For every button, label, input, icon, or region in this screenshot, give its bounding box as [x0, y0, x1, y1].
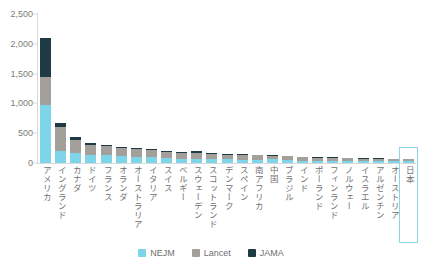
legend-label: JAMA	[260, 248, 284, 258]
legend-swatch-icon	[248, 249, 256, 257]
y-axis-tick-label: 2,000	[0, 39, 33, 49]
x-axis-line	[37, 163, 416, 164]
bar-segment-lancet	[116, 148, 127, 156]
y-axis-tick-mark	[33, 103, 37, 104]
legend-swatch-icon	[138, 249, 146, 257]
x-axis-tick-label: ドイツ	[85, 166, 96, 193]
x-axis-tick-label: カナダ	[70, 166, 81, 193]
x-axis-tick-label: アメリカ	[40, 166, 51, 202]
x-axis-tick-label: イスラエル	[358, 166, 369, 211]
x-axis-tick-label: フランス	[101, 166, 112, 202]
bar-segment-nejm	[146, 157, 157, 163]
bar-segment-nejm	[358, 161, 369, 163]
bar-column[interactable]	[403, 159, 414, 163]
y-axis-tick-mark	[33, 133, 37, 134]
bar-segment-nejm	[373, 161, 384, 163]
bar-segment-nejm	[191, 159, 202, 163]
bar-segment-nejm	[388, 161, 399, 163]
x-axis-tick-label: オーストリア	[388, 166, 399, 220]
bar-segment-nejm	[327, 161, 338, 163]
bar-column[interactable]	[116, 147, 127, 163]
bar-column[interactable]	[191, 151, 202, 163]
bar-column[interactable]	[85, 143, 96, 163]
x-axis-tick-label: オーストラリア	[131, 166, 142, 229]
bar-column[interactable]	[388, 159, 399, 163]
x-axis-tick-label: フィンランド	[327, 166, 338, 220]
bar-column[interactable]	[327, 157, 338, 163]
bar-column[interactable]	[267, 155, 278, 163]
x-axis-tick-label: スウェーデン	[191, 166, 202, 220]
bar-segment-lancet	[131, 149, 142, 157]
bar-column[interactable]	[55, 123, 66, 163]
bar-column[interactable]	[312, 157, 323, 163]
y-axis-tick-mark	[33, 73, 37, 74]
x-axis-tick-label: スペイン	[237, 166, 248, 202]
bar-column[interactable]	[342, 158, 353, 163]
bar-column[interactable]	[101, 145, 112, 163]
x-axis-tick-label: オランダ	[116, 166, 127, 202]
bar-column[interactable]	[297, 157, 308, 163]
bar-segment-nejm	[403, 161, 414, 163]
legend-item[interactable]: JAMA	[248, 248, 284, 258]
y-axis-tick-label: 500	[0, 128, 33, 138]
stacked-bar-chart: 05001,0001,5002,0002,500 アメリカイングランドカナダドイ…	[0, 0, 422, 270]
x-axis-tick-label: 南アフリカ	[252, 166, 263, 211]
x-axis-tick-label: ノルウェー	[342, 166, 353, 211]
y-axis-tick-mark	[33, 43, 37, 44]
bar-column[interactable]	[252, 155, 263, 163]
bar-segment-lancet	[70, 140, 81, 152]
plot-area	[38, 14, 416, 163]
bar-segment-lancet	[55, 127, 66, 151]
bar-segment-jama	[40, 38, 51, 77]
x-axis-tick-label: アルゼンチン	[373, 166, 384, 220]
bar-column[interactable]	[373, 158, 384, 163]
x-axis-labels: アメリカイングランドカナダドイツフランスオランダオーストラリアイタリアスイスベル…	[38, 166, 416, 244]
x-axis-tick-label: イタリア	[146, 166, 157, 202]
bar-segment-nejm	[222, 159, 233, 163]
bar-segment-nejm	[252, 160, 263, 163]
y-axis-tick-mark	[33, 163, 37, 164]
bar-column[interactable]	[176, 152, 187, 163]
bar-column[interactable]	[131, 148, 142, 163]
x-axis-tick-label: 中国	[267, 166, 278, 184]
bar-segment-nejm	[176, 159, 187, 163]
bar-segment-nejm	[267, 159, 278, 163]
bar-segment-lancet	[101, 146, 112, 155]
legend-item[interactable]: Lancet	[192, 248, 231, 258]
bar-segment-nejm	[342, 161, 353, 163]
bar-segment-nejm	[297, 161, 308, 164]
bar-column[interactable]	[358, 158, 369, 163]
legend-label: NEJM	[150, 248, 175, 258]
bar-segment-nejm	[116, 156, 127, 163]
bar-segment-nejm	[312, 161, 323, 163]
bar-column[interactable]	[146, 149, 157, 163]
bar-segment-nejm	[101, 155, 112, 163]
y-axis-tick-label: 2,500	[0, 9, 33, 19]
bar-column[interactable]	[161, 151, 172, 163]
y-axis-tick-mark	[33, 14, 37, 15]
bar-column[interactable]	[282, 156, 293, 163]
bar-segment-nejm	[237, 160, 248, 163]
bar-column[interactable]	[40, 38, 51, 163]
x-axis-tick-label: インド	[297, 166, 308, 193]
x-axis-tick-label: ベルギー	[176, 166, 187, 202]
x-axis-tick-label: イングランド	[55, 166, 66, 220]
bar-series-group	[38, 14, 416, 163]
bar-column[interactable]	[237, 154, 248, 163]
legend-swatch-icon	[192, 249, 200, 257]
bar-column[interactable]	[70, 137, 81, 163]
x-axis-tick-label: デンマーク	[222, 166, 233, 211]
x-axis-tick-label: スコットランド	[206, 166, 217, 229]
chart-legend: NEJMLancetJAMA	[0, 248, 422, 258]
bar-segment-lancet	[85, 145, 96, 155]
bar-segment-nejm	[161, 158, 172, 163]
y-axis-tick-label: 0	[0, 158, 33, 168]
bar-column[interactable]	[222, 154, 233, 163]
legend-item[interactable]: NEJM	[138, 248, 175, 258]
x-axis-tick-label: ブラジル	[282, 166, 293, 202]
bar-segment-lancet	[40, 77, 51, 104]
bar-column[interactable]	[206, 153, 217, 163]
legend-label: Lancet	[204, 248, 231, 258]
bar-segment-nejm	[206, 159, 217, 163]
x-axis-tick-label: ポーランド	[312, 166, 323, 211]
